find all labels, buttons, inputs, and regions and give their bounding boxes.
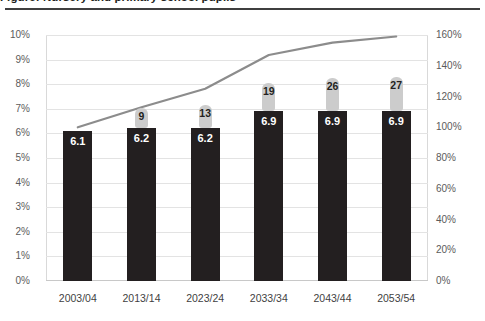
left-axis-tick: 9%: [0, 55, 30, 65]
bar-group[interactable]: 6.926: [318, 35, 347, 281]
right-axis-tick: 120%: [436, 92, 480, 102]
right-axis-tick: 60%: [436, 184, 480, 194]
baseline: [46, 280, 428, 281]
gridline: [46, 183, 428, 184]
bar-cap[interactable]: 9: [135, 108, 148, 129]
bar-cap[interactable]: 13: [199, 105, 212, 129]
plot-area: [46, 35, 428, 281]
bar-dark[interactable]: 6.2: [191, 128, 220, 281]
left-axis-tick: 7%: [0, 104, 30, 114]
right-axis-tick: 20%: [436, 245, 480, 255]
gridline: [46, 256, 428, 257]
right-axis-tick: 100%: [436, 122, 480, 132]
bar-dark[interactable]: 6.1: [63, 131, 92, 281]
bar-value-label: 6.9: [382, 115, 411, 128]
bar-dark[interactable]: 6.9: [318, 111, 347, 281]
left-axis-tick: 6%: [0, 128, 30, 138]
bar-cap-label: 27: [383, 79, 409, 91]
gridline: [46, 207, 428, 208]
bar-cap[interactable]: 27: [390, 77, 403, 111]
gridline: [46, 84, 428, 85]
bar-group[interactable]: 6.29: [127, 35, 156, 281]
gridline: [46, 60, 428, 61]
bar-group[interactable]: 6.213: [191, 35, 220, 281]
bar-cap[interactable]: 19: [262, 83, 275, 111]
category-label: 2053/54: [356, 292, 436, 304]
left-axis-tick: 1%: [0, 251, 30, 261]
bar-value-label: 6.2: [191, 132, 220, 145]
chart-figure: Figure: Nursery and primary school pupil…: [0, 0, 485, 321]
bar-cap-label: 26: [320, 80, 346, 92]
left-axis-tick: 4%: [0, 178, 30, 188]
bar-value-label: 6.9: [254, 115, 283, 128]
right-axis-tick: 80%: [436, 153, 480, 163]
bar-value-label: 6.2: [127, 132, 156, 145]
title-divider: [5, 8, 480, 10]
left-axis-tick: 2%: [0, 227, 30, 237]
bar-group[interactable]: 6.1: [63, 35, 92, 281]
right-axis-tick: 160%: [436, 30, 480, 40]
bar-cap-label: 13: [192, 107, 218, 119]
bar-cap[interactable]: 26: [326, 78, 339, 111]
bar-group[interactable]: 6.919: [254, 35, 283, 281]
right-axis-tick: 0%: [436, 276, 480, 286]
left-axis-tick: 10%: [0, 30, 30, 40]
gridline: [46, 133, 428, 134]
left-axis-tick: 3%: [0, 202, 30, 212]
right-axis-tick: 140%: [436, 61, 480, 71]
gridline: [46, 232, 428, 233]
left-axis-tick: 0%: [0, 276, 30, 286]
bar-value-label: 6.9: [318, 115, 347, 128]
left-axis-tick: 8%: [0, 79, 30, 89]
bar-dark[interactable]: 6.9: [254, 111, 283, 281]
bar-dark[interactable]: 6.2: [127, 128, 156, 281]
gridline: [46, 158, 428, 159]
bar-group[interactable]: 6.927: [382, 35, 411, 281]
gridline: [46, 35, 428, 36]
right-axis-tick: 40%: [436, 215, 480, 225]
left-axis-tick: 5%: [0, 153, 30, 163]
bar-dark[interactable]: 6.9: [382, 111, 411, 281]
bar-value-label: 6.1: [63, 135, 92, 148]
bar-cap-label: 19: [256, 85, 282, 97]
bar-cap-label: 9: [129, 110, 155, 122]
gridline: [46, 109, 428, 110]
figure-title: Figure: Nursery and primary school pupil…: [0, 0, 485, 5]
